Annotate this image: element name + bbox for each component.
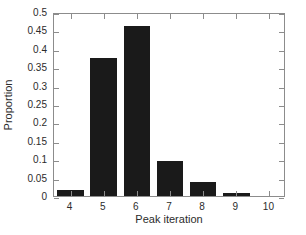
x-tick-label: 5 xyxy=(88,201,118,212)
x-tick-label: 8 xyxy=(187,201,217,212)
x-axis-title: Peak iteration xyxy=(53,213,285,225)
x-axis-tick-labels: 45678910 xyxy=(0,0,306,235)
x-tick-label: 6 xyxy=(121,201,151,212)
x-tick-label: 9 xyxy=(220,201,250,212)
figure-canvas: Proportion 00.050.10.150.20.250.30.350.4… xyxy=(0,0,306,235)
x-tick-label: 4 xyxy=(55,201,85,212)
x-tick-label: 7 xyxy=(154,201,184,212)
x-tick-label: 10 xyxy=(253,201,283,212)
